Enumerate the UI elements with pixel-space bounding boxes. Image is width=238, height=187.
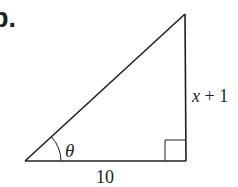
right-triangle-diagram: b. θ 10 x + 1 (0, 0, 238, 187)
angle-theta-label: θ (65, 140, 74, 161)
height-length-label: x + 1 (191, 86, 228, 106)
hypotenuse (25, 14, 185, 161)
angle-arc (52, 137, 62, 161)
base-length-label: 10 (96, 167, 114, 187)
right-angle-marker (165, 140, 186, 161)
problem-label: b. (0, 3, 16, 33)
vertical-side (185, 14, 186, 161)
